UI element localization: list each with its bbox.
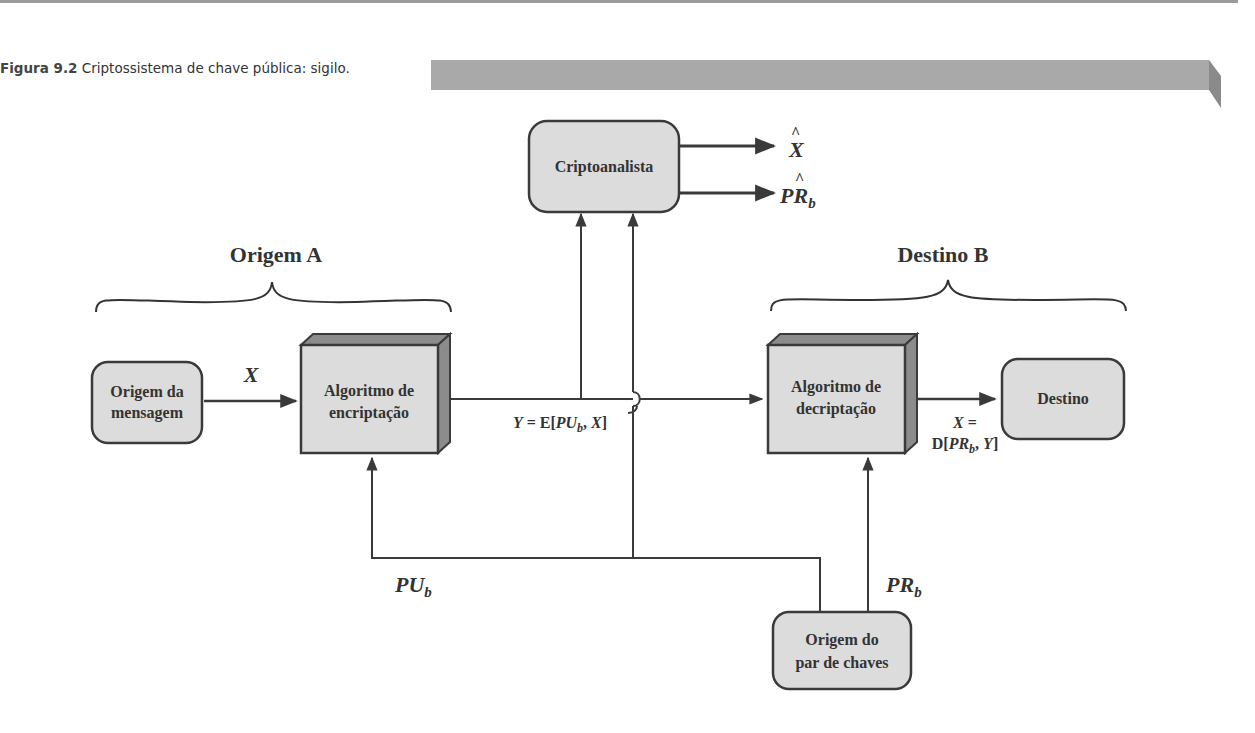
svg-text:decriptação: decriptação — [796, 400, 876, 418]
label-decrypted: X = D[PRb, Y] — [932, 414, 998, 456]
public-key-diagram: Origem A Destino B Origem da mensagem X … — [0, 0, 1255, 733]
brace-source — [96, 282, 451, 312]
label-public-key: PUb — [394, 572, 432, 600]
svg-text:Origem da: Origem da — [110, 383, 183, 401]
edge-ciphertext — [450, 396, 760, 406]
svg-text:Algoritmo de: Algoritmo de — [791, 378, 881, 396]
label-estimate-x: X ^ — [788, 124, 805, 162]
label-estimate-prb: PRb ^ — [779, 170, 816, 211]
group-label-destination: Destino B — [897, 242, 988, 267]
svg-text:Destino: Destino — [1037, 390, 1089, 407]
svg-text:Origem do: Origem do — [805, 631, 878, 649]
node-key-pair-source[interactable]: Origem do par de chaves — [773, 612, 911, 689]
brace-destination — [771, 280, 1126, 311]
node-cryptanalyst[interactable]: Criptoanalista — [529, 121, 679, 212]
group-label-source: Origem A — [230, 242, 322, 267]
label-private-key: PRb — [885, 572, 922, 600]
svg-text:D[PRb, Y]: D[PRb, Y] — [932, 435, 998, 456]
svg-text:encriptação: encriptação — [329, 404, 409, 422]
label-plaintext: X — [243, 362, 260, 387]
node-destination[interactable]: Destino — [1002, 359, 1124, 439]
svg-text:Criptoanalista: Criptoanalista — [555, 158, 654, 176]
svg-text:mensagem: mensagem — [111, 404, 184, 422]
svg-text:^: ^ — [791, 124, 800, 141]
edge-public-key-to-encryption — [372, 458, 820, 612]
node-message-source[interactable]: Origem da mensagem — [92, 362, 202, 443]
svg-text:^: ^ — [795, 170, 804, 187]
node-decryption-algorithm[interactable]: Algoritmo de decriptação — [768, 334, 917, 453]
label-ciphertext: Y = E[PUb, X] — [513, 414, 607, 435]
svg-text:PRb: PRb — [779, 183, 816, 211]
svg-text:Algoritmo de: Algoritmo de — [324, 382, 414, 400]
svg-text:par de chaves: par de chaves — [795, 654, 888, 672]
hop-left — [450, 399, 637, 413]
node-encryption-algorithm[interactable]: Algoritmo de encriptação — [301, 334, 450, 453]
caption-bar — [431, 60, 1221, 108]
svg-text:X =: X = — [952, 414, 977, 431]
